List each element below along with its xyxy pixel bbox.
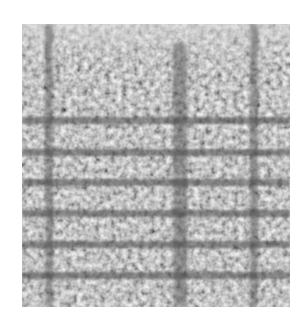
vertical-streak — [45, 24, 53, 307]
noise-texture — [22, 24, 290, 307]
vertical-streak — [173, 44, 187, 307]
image-canvas — [0, 0, 308, 329]
vertical-streak — [250, 24, 258, 307]
